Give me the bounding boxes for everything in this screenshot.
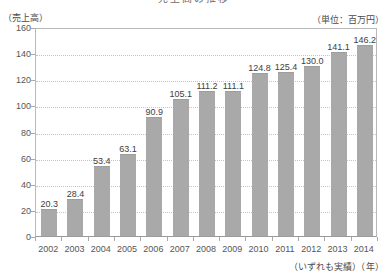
bar-value-label: 90.9 (140, 108, 168, 117)
x-axis-tick-label: 2011 (271, 244, 299, 254)
bar[interactable] (357, 45, 373, 236)
x-axis-tick-label: 2010 (245, 244, 273, 254)
bar[interactable] (120, 154, 136, 236)
bar[interactable] (67, 199, 83, 236)
y-axis-caption: （売上高） (3, 13, 48, 24)
x-axis-tick-label: 2004 (87, 244, 115, 254)
y-axis-tick-label: 0 (4, 233, 31, 242)
x-axis-tick-mark (377, 237, 378, 241)
bar[interactable] (278, 72, 294, 236)
bar-value-label: 124.8 (246, 64, 274, 73)
bar-value-label: 63.1 (114, 145, 142, 154)
y-axis-tick-label: 20 (4, 207, 31, 216)
bar-value-label: 141.1 (325, 43, 353, 52)
y-axis-tick-label: 100 (4, 102, 31, 111)
bar-value-label: 125.4 (272, 63, 300, 72)
x-axis-tick-label: 2014 (350, 244, 378, 254)
bar-value-label: 111.2 (193, 82, 221, 91)
bar[interactable] (94, 166, 110, 236)
x-axis-tick-label: 2007 (166, 244, 194, 254)
bar-value-label: 53.4 (88, 157, 116, 166)
y-axis-tick-label: 140 (4, 50, 31, 59)
x-axis-tick-mark (324, 237, 325, 241)
bar-value-label: 146.2 (351, 36, 379, 45)
x-axis-tick-mark (298, 237, 299, 241)
x-axis-tick-mark (61, 237, 62, 241)
x-axis-tick-label: 2003 (60, 244, 88, 254)
x-axis-tick-mark (88, 237, 89, 241)
y-axis-tick-label: 40 (4, 181, 31, 190)
x-axis-tick-mark (193, 237, 194, 241)
bar[interactable] (41, 209, 57, 236)
y-axis-tick-label: 60 (4, 155, 31, 164)
chart-title: 売上高の推移 (0, 0, 388, 4)
bar[interactable] (146, 117, 162, 236)
x-axis-tick-label: 2013 (324, 244, 352, 254)
bar-value-label: 105.1 (167, 90, 195, 99)
gridline (36, 55, 376, 56)
unit-caption: （単位：百万円） (312, 15, 384, 26)
x-axis-tick-mark (35, 237, 36, 241)
x-axis-tick-mark (219, 237, 220, 241)
bar[interactable] (331, 52, 347, 236)
plot-area: 20.328.453.463.190.9105.1111.2111.1124.8… (35, 28, 377, 237)
x-axis-tick-mark (245, 237, 246, 241)
bar[interactable] (252, 73, 268, 236)
bar[interactable] (225, 91, 241, 236)
bar[interactable] (199, 91, 215, 236)
x-axis-tick-label: 2005 (113, 244, 141, 254)
x-axis-tick-mark (272, 237, 273, 241)
x-axis-tick-mark (114, 237, 115, 241)
y-axis-tick-label: 160 (4, 24, 31, 33)
x-axis-tick-label: 2002 (34, 244, 62, 254)
x-axis-tick-label: 2006 (139, 244, 167, 254)
y-axis-tick-label: 120 (4, 76, 31, 85)
bar[interactable] (173, 99, 189, 236)
chart-footnote: （いずれも実績）（年） (289, 262, 384, 273)
x-axis-tick-mark (167, 237, 168, 241)
bar-value-label: 130.0 (298, 57, 326, 66)
bar-value-label: 20.3 (35, 200, 63, 209)
x-axis-tick-label: 2009 (218, 244, 246, 254)
bar-value-label: 111.1 (219, 82, 247, 91)
x-axis-tick-mark (140, 237, 141, 241)
x-axis-tick-label: 2008 (192, 244, 220, 254)
x-axis-tick-label: 2012 (297, 244, 325, 254)
y-axis-tick-label: 80 (4, 129, 31, 138)
bar-value-label: 28.4 (61, 190, 89, 199)
x-axis-tick-mark (351, 237, 352, 241)
bar[interactable] (304, 66, 320, 236)
